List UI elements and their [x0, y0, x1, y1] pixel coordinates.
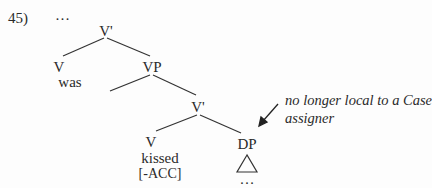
dp-ellipsis: …	[240, 172, 255, 187]
was-word: was	[58, 75, 81, 90]
annotation-arrow	[259, 104, 278, 126]
inner-v-label: V	[146, 135, 157, 150]
acc-feature: [-ACC]	[139, 167, 182, 181]
annotation-line2: assigner	[285, 109, 334, 127]
vp-label: VP	[142, 60, 161, 75]
top-ellipsis: …	[55, 8, 70, 23]
inner-vbar-label: V'	[191, 100, 205, 115]
root-vbar-label: V'	[99, 24, 113, 39]
v-label: V	[54, 60, 65, 75]
example-number: 45)	[8, 11, 28, 26]
dp-label: DP	[237, 137, 256, 152]
kissed-word: kissed	[141, 151, 179, 166]
annotation-line1: no longer local to a Case	[285, 91, 432, 109]
